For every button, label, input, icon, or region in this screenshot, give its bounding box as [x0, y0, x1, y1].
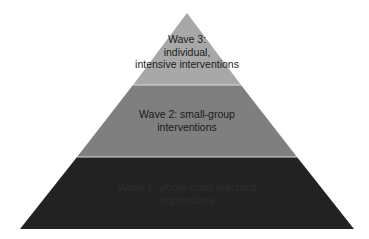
wave-2-label-line: Wave 2: small-group: [139, 108, 235, 121]
pyramid-diagram: Wave 3: individual, intensive interventi…: [0, 0, 369, 239]
wave-3-label-line: individual,: [135, 46, 239, 59]
wave-3-label: Wave 3: individual, intensive interventi…: [135, 33, 239, 71]
wave-2-label: Wave 2: small-group interventions: [139, 108, 235, 133]
wave-2-label-line: interventions: [139, 121, 235, 134]
wave-3-label-line: intensive interventions: [135, 58, 239, 71]
wave-3-label-line: Wave 3:: [135, 33, 239, 46]
wave-1-label-line: Wave 1: whole-class teaching: [118, 181, 257, 194]
wave-1-label: Wave 1: whole-class teaching approaches: [118, 181, 257, 206]
wave-1-label-line: approaches: [118, 194, 257, 207]
